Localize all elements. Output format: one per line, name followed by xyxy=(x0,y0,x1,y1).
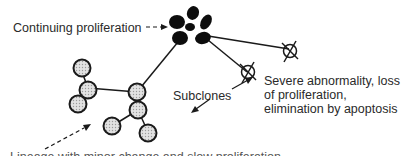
severe-line-3: elimination by apoptosis xyxy=(264,102,400,116)
severe-abnormality-label: Severe abnormality, loss of proliferatio… xyxy=(264,74,400,116)
continuing-proliferation-label: Continuing proliferation xyxy=(13,21,142,35)
cell xyxy=(104,118,121,135)
severe-line-1: Severe abnormality, loss xyxy=(264,74,400,88)
cell xyxy=(74,60,91,77)
cell xyxy=(129,84,146,101)
subclones-label: Subclones xyxy=(173,89,231,103)
cell xyxy=(140,125,157,142)
black-cluster xyxy=(169,4,214,45)
cell xyxy=(70,96,87,113)
severe-line-2: of proliferation, xyxy=(264,88,400,102)
cell xyxy=(130,102,147,119)
bottom-clipped-label: Lineage with minor change and slow proli… xyxy=(10,150,281,156)
